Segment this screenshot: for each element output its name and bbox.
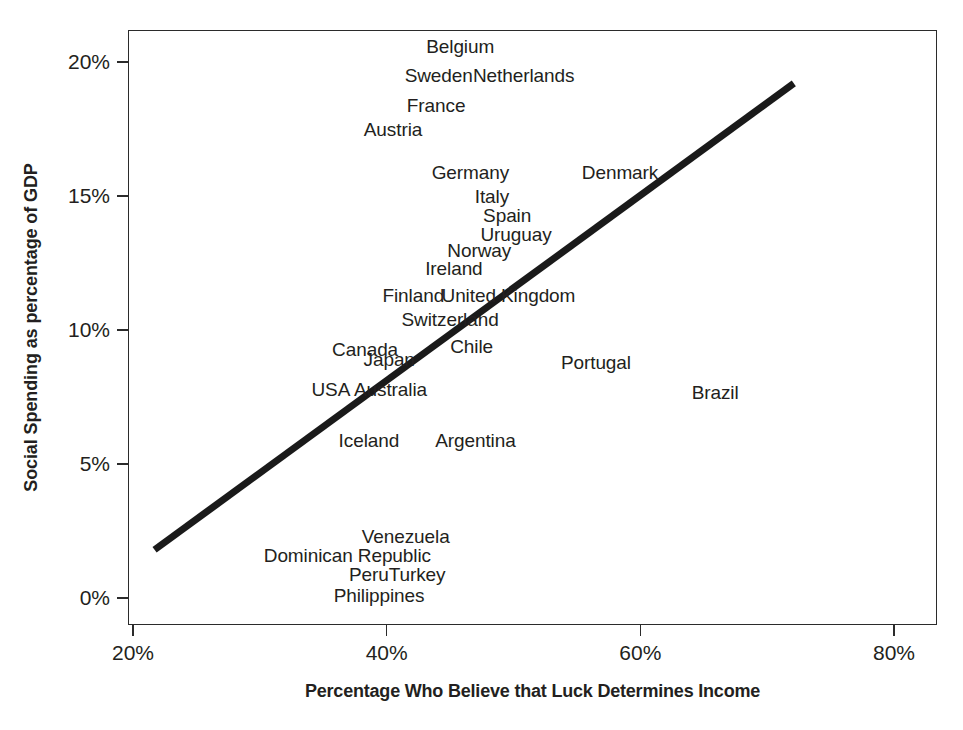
x-tick-label: 40% — [366, 641, 408, 665]
x-axis-title: Percentage Who Believe that Luck Determi… — [128, 681, 937, 702]
data-point-label: Austria — [364, 120, 422, 139]
data-point-label: Venezuela — [362, 527, 450, 546]
data-point-label: Finland — [382, 286, 444, 305]
plot-area: BelgiumSwedenNetherlandsFranceAustriaGer… — [128, 30, 937, 625]
scatter-chart-figure: Social Spending as percentage of GDP 0%5… — [0, 0, 963, 730]
y-axis-title-text: Social Spending as percentage of GDP — [21, 163, 42, 491]
x-tick-mark — [132, 625, 134, 636]
y-tick-label: 15% — [68, 184, 110, 208]
x-tick-mark — [386, 625, 388, 636]
data-point-label: USA — [311, 379, 350, 398]
y-tick-label: 10% — [68, 318, 110, 342]
data-point-label: Switzerland — [402, 310, 499, 329]
data-point-label: Japan — [364, 350, 415, 369]
data-point-label: Turkey — [389, 564, 446, 583]
y-tick-mark — [117, 195, 128, 197]
data-point-label: Chile — [450, 337, 493, 356]
y-tick-mark — [117, 463, 128, 465]
data-point-label: Peru — [349, 564, 389, 583]
data-point-label: Australia — [354, 379, 427, 398]
data-point-label: Portugal — [561, 353, 631, 372]
data-point-label: United Kingdom — [442, 286, 576, 305]
data-point-label: Belgium — [426, 36, 494, 55]
x-tick-label: 20% — [112, 641, 154, 665]
x-tick-label: 60% — [619, 641, 661, 665]
data-point-label: Spain — [483, 205, 531, 224]
data-point-label: Iceland — [339, 430, 400, 449]
data-point-label: Sweden — [405, 66, 473, 85]
y-tick-mark — [117, 61, 128, 63]
y-axis-title: Social Spending as percentage of GDP — [16, 30, 46, 625]
data-point-label: Denmark — [582, 162, 658, 181]
x-tick-mark — [893, 625, 895, 636]
data-point-label: Germany — [432, 162, 509, 181]
data-point-label: France — [407, 95, 466, 114]
data-point-label: Italy — [475, 187, 509, 206]
y-tick-mark — [117, 597, 128, 599]
y-tick-label: 0% — [80, 586, 110, 610]
data-point-label: Ireland — [425, 259, 482, 278]
x-tick-mark — [640, 625, 642, 636]
data-point-label: Argentina — [435, 430, 515, 449]
trend-line-svg — [128, 30, 937, 625]
data-point-label: Norway — [447, 240, 511, 259]
y-tick-label: 5% — [80, 452, 110, 476]
data-point-label: Brazil — [692, 382, 739, 401]
data-point-label: Dominican Republic — [264, 546, 431, 565]
data-point-label: Netherlands — [473, 66, 574, 85]
data-point-label: Philippines — [334, 586, 425, 605]
y-tick-mark — [117, 329, 128, 331]
y-tick-label: 20% — [68, 50, 110, 74]
x-tick-label: 80% — [873, 641, 915, 665]
